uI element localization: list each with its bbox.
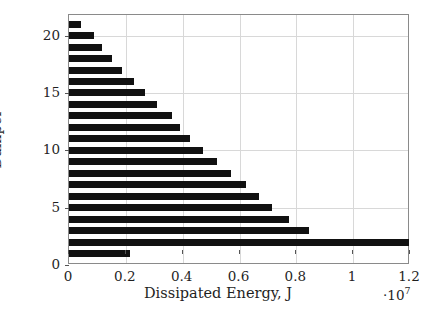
bar-damper-5 <box>69 204 272 211</box>
bar-damper-21 <box>69 21 81 28</box>
bar-damper-4 <box>69 216 289 223</box>
bar-damper-6 <box>69 193 259 200</box>
x-axis-tick-label: 1 <box>348 268 357 284</box>
x-axis-tick-label: 0.4 <box>171 268 192 284</box>
bar-damper-10 <box>69 147 203 154</box>
bar-damper-12 <box>69 124 180 131</box>
y-axis-tick <box>65 265 69 266</box>
x-axis-tick <box>125 250 126 254</box>
x-axis-tick-label: 1.2 <box>398 268 419 284</box>
multiplier-base: ·10 <box>383 287 404 303</box>
y-axis-tick-label: 10 <box>28 141 60 157</box>
y-axis-tick-label: 15 <box>28 84 60 100</box>
y-axis-label: Damper <box>0 110 4 169</box>
bar-damper-14 <box>69 101 157 108</box>
x-axis-tick-label: 0.2 <box>114 268 135 284</box>
bar-damper-9 <box>69 158 217 165</box>
x-axis-tick-label: 0.8 <box>285 268 306 284</box>
y-axis-tick-label: 20 <box>28 27 60 43</box>
bar-damper-7 <box>69 181 246 188</box>
bar-damper-1 <box>69 250 130 257</box>
bar-damper-2 <box>69 239 409 246</box>
y-axis-tick-label: 5 <box>28 199 60 215</box>
multiplier-exponent: 7 <box>404 285 410 296</box>
y-axis-tick-label: 0 <box>28 256 60 272</box>
x-axis-tick <box>409 250 410 254</box>
x-axis-tick-label: 0 <box>64 268 73 284</box>
bar-damper-16 <box>69 78 134 85</box>
x-axis-tick <box>239 250 240 254</box>
x-axis-multiplier: ·107 <box>383 285 411 303</box>
y-axis-tick <box>65 36 69 37</box>
dissipated-energy-bar-chart: 00.20.40.60.811.205101520 Dissipated Ene… <box>0 0 436 314</box>
bar-damper-20 <box>69 32 94 39</box>
bar-damper-11 <box>69 135 190 142</box>
y-axis-tick <box>65 93 69 94</box>
plot-area <box>68 14 409 264</box>
bar-series <box>69 15 408 263</box>
bar-damper-18 <box>69 55 112 62</box>
y-axis-tick <box>65 208 69 209</box>
y-axis-tick <box>65 150 69 151</box>
x-axis-tick <box>182 250 183 254</box>
bar-damper-13 <box>69 112 172 119</box>
bar-damper-15 <box>69 89 145 96</box>
bar-damper-17 <box>69 67 122 74</box>
x-axis-tick-label: 0.6 <box>228 268 249 284</box>
bar-damper-8 <box>69 170 231 177</box>
bar-damper-3 <box>69 227 309 234</box>
x-axis-tick <box>295 250 296 254</box>
x-axis-tick <box>68 250 69 254</box>
x-axis-tick <box>352 250 353 254</box>
bar-damper-19 <box>69 44 102 51</box>
x-axis-label: Dissipated Energy, J <box>0 285 436 301</box>
